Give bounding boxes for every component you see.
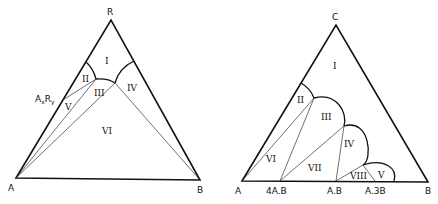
- left-boundary-I-III: [96, 79, 115, 83]
- right-tieline-AB-IV: [336, 126, 344, 181]
- right-region-IV: IV: [344, 139, 355, 149]
- right-ternary-diagram: C A B 4A.B A.B A.3B I II III IV V VI VII…: [235, 12, 431, 196]
- right-base-label-AB: A.B: [327, 186, 342, 196]
- right-base-label-A3B: A.3B: [365, 186, 386, 196]
- right-region-VII: VII: [307, 163, 322, 173]
- left-vertex-left: A: [8, 183, 15, 193]
- right-region-II: II: [297, 95, 305, 105]
- right-region-VIII: VIII: [349, 171, 368, 181]
- right-region-III: III: [321, 112, 332, 122]
- left-region-V: V: [64, 102, 72, 112]
- left-tieline-IV-B: [115, 83, 200, 180]
- left-region-III: III: [94, 88, 105, 98]
- right-region-V: V: [377, 170, 385, 180]
- left-region-II: II: [82, 74, 90, 84]
- left-region-VI: VI: [101, 126, 112, 136]
- left-ternary-diagram: R A B AxRy I II III IV V VI: [8, 7, 203, 195]
- right-region-VI: VI: [265, 154, 276, 164]
- left-tieline-AxRy-II: [63, 79, 96, 100]
- right-vertex-top: C: [332, 12, 338, 22]
- left-boundary-I-IV: [115, 61, 134, 83]
- left-vertex-top: R: [107, 7, 113, 17]
- right-vertex-left: A: [235, 186, 242, 196]
- left-vertex-right: B: [197, 185, 203, 195]
- left-tieline-A-II: [16, 79, 96, 178]
- left-compound-label: AxRy: [35, 94, 55, 106]
- right-base-label-4AB: 4A.B: [266, 186, 287, 196]
- left-region-IV: IV: [127, 83, 138, 93]
- right-vertex-right: B: [425, 186, 431, 196]
- right-region-I: I: [333, 61, 337, 71]
- right-tieline-A-II: [242, 98, 314, 181]
- left-region-I: I: [105, 56, 109, 66]
- phase-diagrams: R A B AxRy I II III IV V VI C A B 4A.B A…: [0, 0, 438, 204]
